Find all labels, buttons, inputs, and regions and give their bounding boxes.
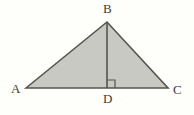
vertex-label-c: C [173,83,182,96]
vertex-label-b: B [103,2,112,15]
vertex-label-d: D [103,92,112,105]
vertex-label-a: A [11,82,20,95]
geometry-canvas [0,0,194,115]
geometry-figure: A B C D [0,0,194,115]
